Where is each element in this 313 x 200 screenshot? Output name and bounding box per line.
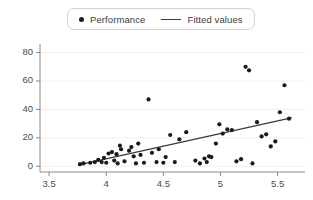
legend-entry-performance: Performance	[79, 14, 145, 25]
x-tick-label: 5.5	[258, 178, 298, 189]
gridlines	[40, 53, 305, 167]
x-tick-label: 4.5	[143, 178, 183, 189]
fitted-line	[79, 118, 291, 165]
chart-legend: Performance Fitted values	[67, 8, 255, 30]
plot-area	[0, 0, 313, 200]
y-tick-label: 80	[22, 46, 33, 57]
legend-entry-fitted-values: Fitted values	[161, 14, 242, 25]
legend-line-icon	[161, 19, 181, 20]
y-tick-label: 60	[22, 74, 33, 85]
axis-lines	[40, 44, 305, 172]
legend-label-performance: Performance	[90, 14, 145, 25]
data-points	[78, 65, 291, 167]
y-tick-label: 20	[22, 131, 33, 142]
x-tick-label: 5	[200, 178, 240, 189]
x-tick-label: 3.5	[29, 178, 69, 189]
scatter-chart: Performance Fitted values 0204060803.544…	[0, 0, 313, 200]
x-tick-label: 4	[86, 178, 126, 189]
y-tick-label: 40	[22, 103, 33, 114]
legend-label-fitted-values: Fitted values	[187, 14, 242, 25]
y-tick-label: 0	[28, 160, 33, 171]
legend-dot-icon	[79, 17, 84, 22]
